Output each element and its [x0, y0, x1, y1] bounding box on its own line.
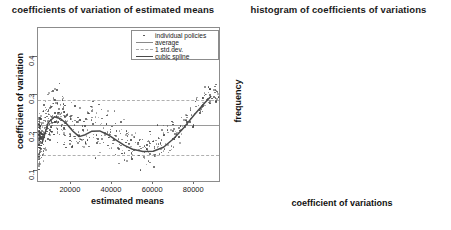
legend-key-solid-line — [134, 39, 155, 46]
legend-glyph-thick-line — [136, 56, 153, 57]
scatter-x-axis-title: estimated means — [37, 196, 218, 206]
scatter-x-tick-label: 20000 — [50, 185, 90, 194]
scatter-legend: individual policiesaverage1 std.dev.cubi… — [131, 30, 219, 60]
figure-root: coefficients of variation of estimated m… — [0, 0, 451, 230]
legend-glyph-dashed-line — [136, 49, 153, 50]
scatter-x-tick-label: 40000 — [91, 185, 131, 194]
scatter-x-tick-label: 60000 — [132, 185, 172, 194]
legend-label: individual policies — [155, 32, 206, 39]
scatter-y-tick-label: 0.2 — [27, 132, 36, 162]
scatter-y-axis-title: coefficient of variation — [15, 41, 25, 161]
legend-entry-1: average — [132, 39, 218, 46]
legend-key-dashed-line — [134, 46, 155, 53]
histogram-panel: histogram of coefficients of variations … — [226, 0, 451, 230]
legend-key-points — [134, 32, 155, 39]
legend-key-thick-line — [134, 53, 155, 60]
legend-label: cubic spline — [155, 53, 189, 60]
scatter-panel: coefficients of variation of estimated m… — [0, 0, 226, 230]
scatter-title: coefficients of variation of estimated m… — [0, 4, 226, 15]
legend-entry-0: individual policies — [132, 32, 218, 39]
histogram-y-axis-title: frequency — [233, 41, 243, 161]
legend-glyph-solid-line — [136, 42, 153, 43]
legend-glyph-points — [143, 35, 145, 37]
scatter-y-tick-label: 0.3 — [27, 93, 36, 123]
scatter-x-tick-label: 80000 — [173, 185, 213, 194]
legend-entry-2: 1 std.dev. — [132, 46, 218, 53]
scatter-y-tick-label: 0.4 — [27, 55, 36, 85]
legend-entry-3: cubic spline — [132, 53, 218, 60]
histogram-x-axis-title: coefficient of variations — [242, 198, 442, 208]
scatter-y-tick-label: 0.1 — [27, 170, 36, 200]
legend-label: 1 std.dev. — [155, 46, 183, 53]
legend-label: average — [155, 39, 179, 46]
histogram-title: histogram of coefficients of variations — [226, 4, 451, 15]
